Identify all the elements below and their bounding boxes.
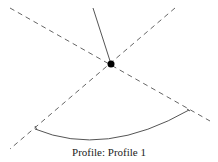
profile-arc bbox=[35, 110, 189, 140]
center-point bbox=[108, 61, 115, 68]
solid-line bbox=[93, 8, 111, 64]
profile-caption: Profile: Profile 1 bbox=[0, 146, 218, 158]
diagram-svg bbox=[0, 0, 218, 162]
profile-diagram: Profile: Profile 1 bbox=[0, 0, 218, 162]
